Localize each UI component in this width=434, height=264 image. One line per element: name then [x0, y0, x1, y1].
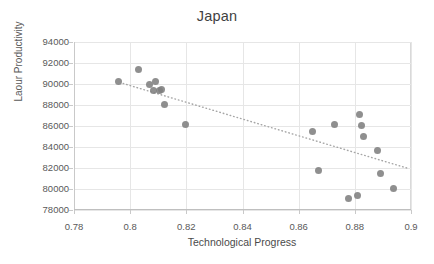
y-tick-label: 82000	[43, 163, 69, 173]
y-tick-label: 94000	[43, 37, 69, 47]
x-tick-label: 0.82	[177, 222, 196, 232]
data-point	[374, 147, 381, 154]
data-point	[356, 111, 363, 118]
y-tick-mark	[69, 126, 73, 127]
y-tick-mark	[69, 189, 73, 190]
gridline-vertical	[411, 42, 412, 210]
y-tick-label: 80000	[43, 184, 69, 194]
data-point	[390, 185, 397, 192]
x-tick-mark	[243, 210, 244, 214]
x-axis-title: Technological Progress	[74, 236, 410, 248]
x-tick-mark	[74, 210, 75, 214]
x-tick-label: 0.78	[65, 222, 84, 232]
chart-title: Japan	[0, 8, 434, 24]
scatter-chart: Japan Laour Productivity 780008000082000…	[0, 0, 434, 264]
y-tick-label: 86000	[43, 121, 69, 131]
x-tick-mark	[411, 210, 412, 214]
gridline-vertical	[130, 42, 131, 210]
y-tick-label: 78000	[43, 205, 69, 215]
x-tick-mark	[299, 210, 300, 214]
data-point	[331, 121, 338, 128]
y-tick-label: 92000	[43, 58, 69, 68]
x-tick-label: 0.8	[124, 222, 137, 232]
x-tick-label: 0.9	[404, 222, 417, 232]
plot-area	[74, 42, 411, 210]
y-tick-mark	[69, 105, 73, 106]
y-tick-mark	[69, 84, 73, 85]
data-point	[161, 101, 168, 108]
y-tick-mark	[69, 63, 73, 64]
data-point	[182, 121, 189, 128]
data-point	[152, 78, 159, 85]
y-tick-mark	[69, 210, 73, 211]
y-tick-mark	[69, 168, 73, 169]
x-tick-mark	[186, 210, 187, 214]
x-tick-mark	[130, 210, 131, 214]
gridline-vertical	[243, 42, 244, 210]
data-point	[309, 128, 316, 135]
data-point	[135, 66, 142, 73]
data-point	[354, 192, 361, 199]
y-tick-label: 88000	[43, 100, 69, 110]
gridline-vertical	[355, 42, 356, 210]
gridline-vertical	[299, 42, 300, 210]
x-tick-mark	[355, 210, 356, 214]
x-tick-label: 0.84	[233, 222, 252, 232]
x-tick-label: 0.86	[289, 222, 308, 232]
y-tick-label: 84000	[43, 142, 69, 152]
data-point	[345, 195, 352, 202]
data-point	[358, 122, 365, 129]
y-axis-title: Laour Productivity	[13, 0, 24, 132]
y-tick-mark	[69, 42, 73, 43]
y-tick-label: 90000	[43, 79, 69, 89]
y-tick-mark	[69, 147, 73, 148]
y-axis-line	[74, 42, 75, 210]
x-tick-label: 0.88	[346, 222, 365, 232]
